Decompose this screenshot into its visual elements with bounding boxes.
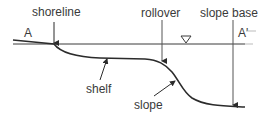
rollover-label: rollover — [141, 6, 180, 20]
seafloor-profile — [13, 40, 245, 107]
section-start-label: A — [24, 26, 32, 40]
shelf-label: shelf — [86, 82, 112, 96]
slope-label: slope — [134, 98, 163, 112]
shelf-profile-diagram: shoreline rollover slope base A A' shelf… — [0, 0, 267, 118]
slope-arrow — [154, 81, 175, 96]
water-level-icon — [181, 36, 191, 43]
slope-base-label: slope base — [200, 6, 258, 20]
section-end-label: A' — [238, 26, 248, 40]
shelf-arrow — [100, 59, 107, 80]
shoreline-label: shoreline — [32, 5, 81, 19]
